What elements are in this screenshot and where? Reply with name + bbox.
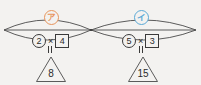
label-i-text: イ	[137, 13, 146, 22]
right-circled-number: 5	[122, 34, 136, 48]
center-junction-point	[90, 29, 92, 31]
left-equals-stroke-1	[48, 46, 49, 53]
left-result-value: 8	[48, 69, 54, 82]
left-boxed-number: 4	[55, 34, 69, 48]
left-circled-number: 2	[32, 34, 46, 48]
right-boxed-number: 3	[145, 34, 159, 48]
label-a-text: ア	[47, 13, 56, 22]
right-equals-stroke-2	[142, 46, 143, 53]
right-equals-stroke-1	[139, 46, 140, 53]
label-a-badge: ア	[44, 10, 59, 25]
left-multiply-sign: ×	[48, 37, 53, 46]
label-i-badge: イ	[134, 10, 149, 25]
right-multiply-sign: ×	[138, 37, 143, 46]
right-equals-sign	[139, 46, 143, 53]
left-result-holder: 8	[36, 56, 66, 82]
lens-diagram-svg	[0, 0, 201, 85]
right-result-holder: 15	[128, 56, 158, 82]
left-equals-stroke-2	[51, 46, 52, 53]
right-result-value: 15	[137, 69, 148, 82]
math-diagram: ア イ 2 × 4 5 × 3 8 15	[0, 0, 201, 85]
left-equals-sign	[48, 46, 52, 53]
